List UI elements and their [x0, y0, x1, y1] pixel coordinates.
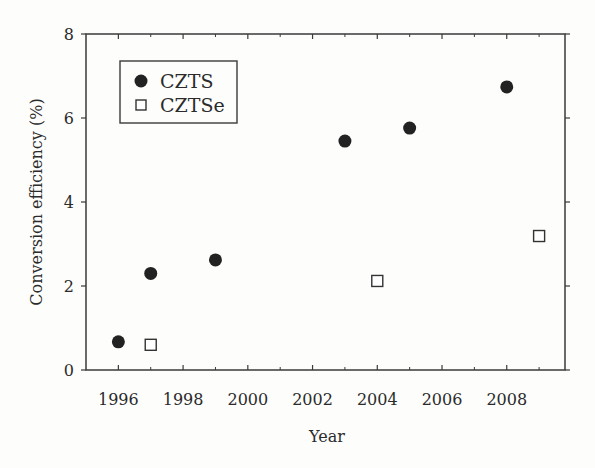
y-tick-label: 4: [64, 193, 74, 212]
legend-czts-label: CZTS: [160, 70, 213, 92]
data-point-czts: [338, 135, 351, 148]
x-tick-label: 2008: [486, 390, 527, 409]
x-tick-label: 2002: [292, 390, 333, 409]
data-point-czts: [403, 122, 416, 135]
x-axis-label: Year: [308, 427, 345, 446]
data-point-czts: [209, 253, 222, 266]
data-point-cztse: [372, 275, 383, 286]
legend-cztse-label: CZTSe: [160, 94, 225, 116]
x-tick-label: 2006: [422, 390, 463, 409]
legend-cztse-marker-icon: [136, 100, 146, 110]
y-tick-label: 0: [64, 361, 74, 380]
legend-czts-marker-icon: [135, 75, 148, 88]
y-tick-label: 2: [64, 277, 74, 296]
data-point-czts: [500, 80, 513, 93]
y-tick-label: 8: [64, 25, 74, 44]
x-tick-label: 2004: [357, 390, 398, 409]
scatter-chart: 1996199820002002200420062008 02468 Year …: [0, 0, 595, 468]
data-point-czts: [144, 267, 157, 280]
data-point-cztse: [145, 339, 156, 350]
data-point-czts: [112, 335, 125, 348]
y-tick-label: 6: [64, 109, 74, 128]
data-point-cztse: [534, 231, 545, 242]
x-tick-label: 1998: [163, 390, 204, 409]
legend: CZTS CZTSe: [120, 61, 237, 123]
y-axis-label: Conversion efficiency (%): [27, 98, 46, 305]
x-tick-label: 2000: [227, 390, 268, 409]
x-tick-label: 1996: [98, 390, 139, 409]
